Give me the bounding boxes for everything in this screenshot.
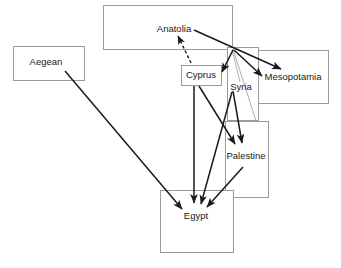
edge-aegean-to-egypt[interactable] (65, 71, 182, 209)
region-boxes-layer (14, 6, 329, 253)
region-label-egypt: Egypt (184, 210, 209, 221)
region-box-egypt[interactable] (161, 191, 234, 253)
diagram-canvas: Anatolia Aegean Mesopotamia Cyprus Syria… (0, 0, 341, 268)
diagram-svg: Anatolia Aegean Mesopotamia Cyprus Syria… (0, 0, 341, 268)
region-label-palestine: Palestine (226, 150, 265, 161)
region-label-aegean: Aegean (30, 56, 63, 67)
region-label-syria: Syria (230, 81, 252, 92)
region-label-mesopotamia: Mesopotamia (264, 71, 322, 82)
region-label-cyprus: Cyprus (186, 69, 216, 80)
region-label-anatolia: Anatolia (157, 23, 192, 34)
